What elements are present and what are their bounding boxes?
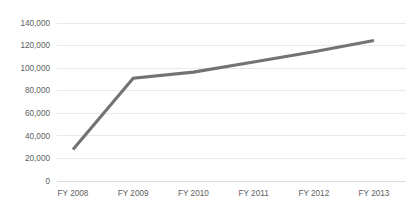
y-axis-tick-label: 100,000 — [20, 64, 50, 73]
y-axis-tick-label: 60,000 — [25, 109, 50, 118]
series-line — [73, 40, 374, 149]
x-axis-tick-label: FY 2011 — [238, 189, 269, 198]
chart-canvas: 020,00040,00060,00080,000100,000120,0001… — [0, 0, 411, 211]
x-axis-tick-label: FY 2008 — [58, 189, 89, 198]
x-axis-tick-label: FY 2009 — [118, 189, 149, 198]
y-axis-tick-label: 140,000 — [20, 19, 50, 28]
series-group — [73, 40, 374, 149]
gridlines — [57, 23, 406, 181]
x-axis-tick-label: FY 2012 — [298, 189, 329, 198]
x-axis-tick-label: FY 2010 — [178, 189, 209, 198]
y-axis-tick-labels: 020,00040,00060,00080,000100,000120,0001… — [20, 19, 50, 186]
x-axis-tick-label: FY 2013 — [359, 189, 390, 198]
y-axis-tick-label: 120,000 — [20, 41, 50, 50]
y-axis-tick-label: 40,000 — [25, 132, 50, 141]
y-axis-tick-label: 0 — [45, 177, 50, 186]
line-chart: 020,00040,00060,00080,000100,000120,0001… — [0, 0, 411, 211]
y-axis-tick-label: 80,000 — [25, 86, 50, 95]
y-axis-tick-label: 20,000 — [25, 154, 50, 163]
x-axis-tick-labels: FY 2008FY 2009FY 2010FY 2011FY 2012FY 20… — [58, 189, 390, 198]
